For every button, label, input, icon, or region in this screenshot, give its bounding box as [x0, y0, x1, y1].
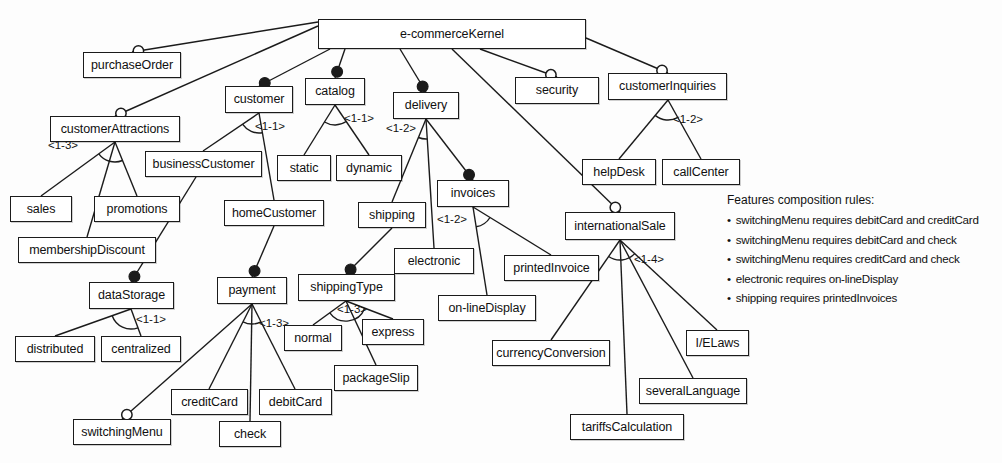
feature-node-label: distributed	[27, 343, 84, 356]
bullet-icon: •	[727, 213, 734, 226]
feature-node-label: security	[536, 84, 578, 97]
edge-dataStorage-to-distributed	[55, 309, 131, 336]
feature-node-membershipdiscount[interactable]: membershipDiscount	[18, 237, 156, 263]
edge-invoices-to-on-lineDisplay	[473, 207, 487, 295]
mandatory-marker-invoices	[464, 169, 475, 180]
feature-node-helpdesk[interactable]: helpDesk	[582, 159, 656, 185]
feature-node-sales[interactable]: sales	[10, 196, 72, 222]
feature-node-internationalsale[interactable]: internationalSale	[565, 212, 675, 240]
feature-node-security[interactable]: security	[515, 77, 599, 104]
edge-ecommerceKernel-to-catalog	[335, 49, 345, 78]
card-catalog: <1-1>	[344, 112, 374, 124]
bullet-icon: •	[727, 291, 734, 304]
feature-node-label: dataStorage	[98, 289, 165, 302]
card-delivery: <1-2>	[386, 122, 416, 134]
edge-customerInquiries-to-callCenter	[668, 100, 701, 159]
feature-node-packageslip[interactable]: packageSlip	[334, 365, 418, 391]
feature-node-on-linedisplay[interactable]: on-lineDisplay	[438, 295, 536, 321]
feature-node-homecustomer[interactable]: homeCustomer	[224, 200, 324, 226]
feature-node-i-elaws[interactable]: I/ELaws	[686, 330, 749, 356]
feature-node-label: centralized	[111, 343, 170, 356]
feature-node-label: homeCustomer	[232, 207, 316, 220]
card-customerAttractions: <1-3>	[48, 139, 78, 151]
feature-node-label: debitCard	[269, 396, 322, 409]
feature-node-currencyconversion[interactable]: currencyConversion	[492, 340, 610, 366]
feature-node-dynamic[interactable]: dynamic	[336, 155, 402, 181]
composition-rules-list: • switchingMenu requires debitCard and c…	[727, 213, 999, 304]
card-invoices: <1-2>	[437, 213, 467, 225]
bullet-icon: •	[727, 233, 734, 246]
composition-rule-text: electronic requires on-lineDisplay	[736, 272, 898, 285]
feature-node-label: delivery	[405, 99, 447, 112]
feature-node-label: currencyConversion	[496, 347, 605, 360]
edge-payment-to-check	[250, 304, 252, 421]
feature-node-printedinvoice[interactable]: printedInvoice	[504, 255, 599, 281]
composition-rule-text: switchingMenu requires debitCard and che…	[736, 233, 957, 246]
edge-internationalSale-to-tariffsCalculation	[620, 240, 627, 414]
feature-node-callcenter[interactable]: callCenter	[662, 159, 740, 185]
edge-catalog-to-static	[304, 105, 335, 155]
feature-node-label: tariffsCalculation	[582, 421, 672, 434]
feature-node-label: shippingType	[310, 281, 382, 294]
feature-node-label: dynamic	[346, 162, 392, 175]
edge-payment-to-creditCard	[209, 304, 252, 389]
feature-node-label: electronic	[408, 255, 461, 268]
edge-delivery-to-invoices	[426, 119, 473, 180]
mandatory-marker-payment	[249, 266, 260, 277]
feature-node-promotions[interactable]: promotions	[94, 196, 180, 222]
edge-customerAttractions-to-membershipDiscount	[87, 142, 115, 237]
composition-rule-item: • shipping requires printedInvoices	[727, 291, 999, 304]
feature-node-shipping[interactable]: shipping	[358, 202, 426, 228]
feature-node-label: switchingMenu	[81, 426, 162, 439]
feature-node-label: severalLanguage	[646, 385, 740, 398]
feature-node-label: customerAttractions	[61, 123, 170, 136]
feature-node-label: promotions	[107, 203, 168, 216]
feature-node-catalog[interactable]: catalog	[305, 78, 365, 105]
edge-customer-to-businessCustomer	[203, 113, 259, 151]
feature-node-electronic[interactable]: electronic	[394, 248, 474, 274]
feature-node-label: normal	[294, 332, 332, 345]
alternative-group-arc-invoices	[476, 218, 490, 227]
feature-node-check[interactable]: check	[219, 421, 281, 447]
feature-node-express[interactable]: express	[362, 319, 424, 345]
feature-node-severallanguage[interactable]: severalLanguage	[639, 378, 747, 404]
feature-node-tariffscalculation[interactable]: tariffsCalculation	[570, 414, 684, 440]
alternative-group-arc-customerAttractions	[99, 154, 123, 162]
feature-node-centralized[interactable]: centralized	[101, 336, 181, 362]
feature-node-switchingmenu[interactable]: switchingMenu	[73, 419, 171, 445]
feature-node-label: I/ELaws	[696, 337, 740, 350]
feature-node-label: creditCard	[181, 396, 238, 409]
composition-rules-title: Features composition rules:	[727, 193, 999, 207]
feature-node-delivery[interactable]: delivery	[393, 92, 459, 119]
composition-rule-text: shipping requires printedInvoices	[736, 291, 897, 304]
feature-node-businesscustomer[interactable]: businessCustomer	[145, 151, 262, 177]
mandatory-marker-delivery	[417, 81, 428, 92]
feature-node-label: helpDesk	[593, 166, 644, 179]
feature-node-ecommercekernel[interactable]: e-commerceKernel	[318, 19, 586, 49]
feature-node-distributed[interactable]: distributed	[15, 336, 95, 362]
composition-rule-text: switchingMenu requires debitCard and cre…	[736, 213, 979, 226]
feature-node-customerinquiries[interactable]: customerInquiries	[608, 73, 727, 100]
feature-node-label: printedInvoice	[513, 262, 589, 275]
edge-invoices-to-printedInvoice	[473, 207, 551, 255]
feature-node-shippingtype[interactable]: shippingType	[298, 274, 395, 301]
feature-node-normal[interactable]: normal	[284, 325, 342, 351]
feature-node-label: businessCustomer	[153, 158, 255, 171]
composition-rule-text: switchingMenu requires creditCard and ch…	[736, 252, 960, 265]
edge-ecommerceKernel-to-customerInquiries	[586, 38, 668, 73]
mandatory-marker-catalog	[332, 66, 343, 77]
edge-businessCustomer-to-dataStorage	[131, 177, 196, 282]
feature-node-purchaseorder[interactable]: purchaseOrder	[83, 52, 181, 78]
feature-node-datastorage[interactable]: dataStorage	[89, 282, 174, 309]
alternative-group-arc-dataStorage	[112, 316, 138, 329]
feature-node-payment[interactable]: payment	[217, 277, 287, 304]
feature-node-invoices[interactable]: invoices	[437, 180, 509, 207]
feature-node-customer[interactable]: customer	[225, 86, 293, 113]
edge-customerInquiries-to-helpDesk	[619, 100, 668, 159]
feature-node-static[interactable]: static	[277, 155, 331, 181]
feature-node-label: catalog	[315, 85, 355, 98]
feature-node-debitcard[interactable]: debitCard	[259, 389, 332, 415]
edge-ecommerceKernel-to-purchaseOrder	[132, 22, 318, 52]
feature-node-creditcard[interactable]: creditCard	[171, 389, 248, 415]
feature-node-label: check	[234, 428, 266, 441]
